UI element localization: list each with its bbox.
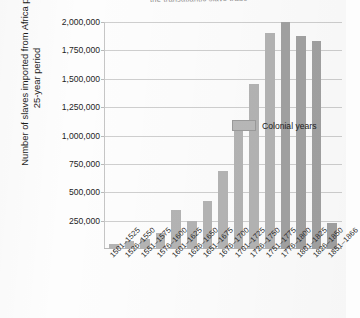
bar-slot — [137, 22, 153, 249]
plot-area: 2,000,0001,750,0001,500,0001,250,0001,00… — [104, 22, 342, 249]
y-tick-label: 1,250,000 — [62, 102, 100, 112]
y-tick-label: 750,000 — [69, 159, 100, 169]
chart-title: the transatlantic slave trade — [150, 0, 346, 3]
x-axis-labels: 1501–15251526–15501551–15751576–16001601… — [104, 253, 342, 313]
bar — [265, 33, 275, 249]
y-tick-label: 500,000 — [69, 187, 100, 197]
bar — [312, 41, 322, 249]
bar-slot — [184, 22, 200, 249]
bar-slot — [122, 22, 138, 249]
bar-slot — [309, 22, 325, 249]
bar-slot — [200, 22, 216, 249]
legend-label-colonial-years: Colonial years — [262, 121, 316, 131]
bar — [296, 36, 306, 249]
bar-series — [104, 22, 342, 249]
y-tick-label: 1,000,000 — [62, 131, 100, 141]
bar-slot — [246, 22, 262, 249]
bar-slot — [293, 22, 309, 249]
legend-swatch-colonial-years — [232, 120, 256, 131]
bar-slot — [215, 22, 231, 249]
bar-slot — [324, 22, 340, 249]
bar-slot — [278, 22, 294, 249]
bar-slot — [262, 22, 278, 249]
bar-slot — [106, 22, 122, 249]
bar-slot — [168, 22, 184, 249]
y-tick-label: 1,500,000 — [62, 74, 100, 84]
legend: Colonial years — [232, 120, 316, 131]
y-axis-title: Number of slaves imported from Africa pe… — [19, 0, 43, 173]
y-tick-label: 2,000,000 — [62, 17, 100, 27]
y-tick-label: 1,750,000 — [62, 45, 100, 55]
bar-slot — [153, 22, 169, 249]
y-tick-label: 250,000 — [69, 216, 100, 226]
bar — [281, 22, 291, 249]
bar-slot — [231, 22, 247, 249]
bar — [249, 84, 259, 249]
